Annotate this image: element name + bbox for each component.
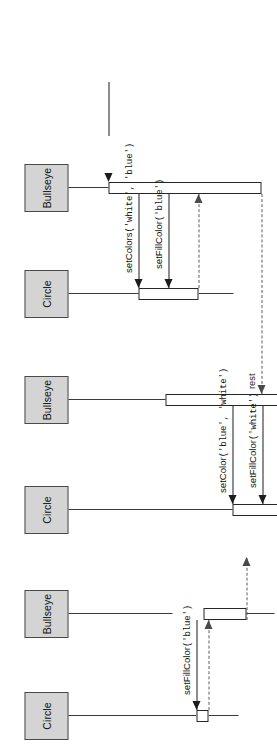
message-label-setfillcolor-blue-1: setFillColor('blue') xyxy=(181,605,191,695)
message-line-setcolor xyxy=(232,406,233,504)
participant-box-circle-3[interactable]: Circle xyxy=(24,270,68,318)
lifeline-bullseye-1-tail xyxy=(246,613,274,614)
message-label-setfillcolor-white: setFillColor('white') xyxy=(247,393,257,488)
return-arrowhead-circle-3-icon xyxy=(194,194,202,203)
message-line-setfillcolor-white xyxy=(262,406,263,504)
participant-label: Circle xyxy=(40,496,52,523)
activation-bar-bullseye-1 xyxy=(203,608,246,620)
lifeline-circle-3-tail xyxy=(198,293,233,294)
message-name: setFillColor xyxy=(180,647,191,695)
activation-bar-circle-1 xyxy=(196,710,208,722)
return-line-circle-3 xyxy=(198,194,199,288)
message-arrowhead-setfillcolor-white-icon xyxy=(258,495,266,504)
message-args: ('blue') xyxy=(153,179,164,221)
return-label-rest-1: rest xyxy=(247,374,256,390)
lifeline-bullseye-1 xyxy=(68,613,172,614)
message-args: ('blue') xyxy=(181,605,192,647)
message-label-setcolor: setColor('blue', 'white') xyxy=(217,368,227,493)
lifeline-circle-1-tail xyxy=(208,715,238,716)
return-label-text: rest xyxy=(246,374,256,390)
participant-label: Circle xyxy=(40,280,52,307)
found-message-line xyxy=(108,82,109,136)
activation-bar-circle-3 xyxy=(138,288,198,300)
message-args: ('white') xyxy=(247,393,258,440)
message-label-setfillcolor-blue-2: setFillColor('blue') xyxy=(153,179,163,269)
participant-label: Bullseye xyxy=(40,168,52,209)
return-arrowhead-circle-1-icon xyxy=(204,620,212,629)
message-arrowhead-setfillcolor-blue-1-icon xyxy=(192,701,200,710)
message-args: ('white', 'blue') xyxy=(123,143,134,232)
message-args: ('blue', 'white') xyxy=(217,368,228,457)
message-label-setcolors: setColors('white', 'blue') xyxy=(123,143,133,273)
participant-box-bullseye-2[interactable]: Bullseye xyxy=(24,376,68,424)
message-name: setColor xyxy=(216,457,227,493)
return-label-text: rest xyxy=(275,586,277,602)
participant-box-bullseye-1[interactable]: Bullseye xyxy=(24,590,68,638)
message-name: setFillColor xyxy=(246,440,257,488)
participant-box-bullseye-3[interactable]: Bullseye xyxy=(24,164,68,212)
found-message-arrowhead-icon xyxy=(104,173,112,182)
participant-label: Bullseye xyxy=(40,380,52,421)
return-arrowhead-exit-icon xyxy=(242,557,250,566)
lifeline-circle-1 xyxy=(68,715,196,716)
message-arrowhead-setfillcolor-blue-2-icon xyxy=(164,279,172,288)
return-line-rest-1 xyxy=(261,194,262,394)
return-line-exit xyxy=(246,558,247,620)
participant-box-circle-2[interactable]: Circle xyxy=(24,486,68,534)
message-arrowhead-setcolor-icon xyxy=(228,495,236,504)
return-label-rest-2: rest xyxy=(276,586,277,602)
message-arrowhead-setcolors-icon xyxy=(134,279,142,288)
participant-label: Bullseye xyxy=(40,594,52,635)
message-line-setfillcolor-blue-1 xyxy=(196,620,197,710)
message-name: setFillColor xyxy=(152,221,163,269)
message-name: setColors xyxy=(122,232,133,273)
participant-box-circle-1[interactable]: Circle xyxy=(24,692,68,740)
message-line-setfillcolor-blue-2 xyxy=(168,194,169,288)
return-line-circle-1 xyxy=(208,620,209,710)
sequence-diagram-rotated-content: Circle Bullseye Circle Bullseye Circle B xyxy=(0,0,277,746)
participant-label: Circle xyxy=(40,702,52,729)
activation-bar-circle-2 xyxy=(232,504,277,516)
message-line-setcolors xyxy=(138,194,139,288)
sequence-diagram-canvas: Circle Bullseye Circle Bullseye Circle B xyxy=(0,0,277,746)
